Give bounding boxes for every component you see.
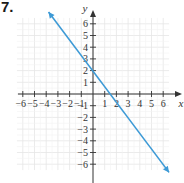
y-tick-label: −5	[77, 147, 88, 158]
y-tick-label: 1	[83, 77, 88, 88]
x-tick-label: −5	[27, 98, 38, 109]
problem-number: 7.	[1, 0, 14, 15]
x-tick-label: 6	[161, 98, 166, 109]
y-tick-label: −3	[77, 124, 88, 135]
y-tick-label: 5	[83, 30, 88, 41]
y-tick-label: −1	[77, 100, 88, 111]
y-tick-label: −4	[77, 135, 88, 146]
x-tick-label: −3	[51, 98, 62, 109]
series-line	[49, 12, 170, 172]
tick-labels: −6−5−4−3−2−1123456−6−5−4−3−2−1123456xy	[15, 2, 183, 170]
y-tick-label: 4	[83, 42, 88, 53]
y-tick-label: 2	[83, 65, 88, 76]
line-graph: −6−5−4−3−2−1123456−6−5−4−3−2−1123456xy	[0, 0, 184, 183]
x-tick-label: −4	[39, 98, 50, 109]
data-line	[49, 12, 170, 172]
x-tick-label: 5	[149, 98, 154, 109]
x-axis-label: x	[178, 97, 184, 109]
x-tick-label: 1	[102, 98, 107, 109]
x-tick-label: −6	[15, 98, 26, 109]
x-tick-label: 4	[137, 98, 142, 109]
x-tick-label: 3	[126, 98, 131, 109]
y-axis-label: y	[82, 2, 88, 14]
y-tick-label: −6	[77, 159, 88, 170]
x-tick-label: −2	[62, 98, 73, 109]
coordinate-plane-figure: 7. −6−5−4−3−2−1123456−6−5−4−3−2−1123456x…	[0, 0, 184, 183]
y-tick-label: −2	[77, 112, 88, 123]
y-axis-arrow-icon	[90, 10, 96, 17]
y-tick-label: 6	[83, 18, 88, 29]
